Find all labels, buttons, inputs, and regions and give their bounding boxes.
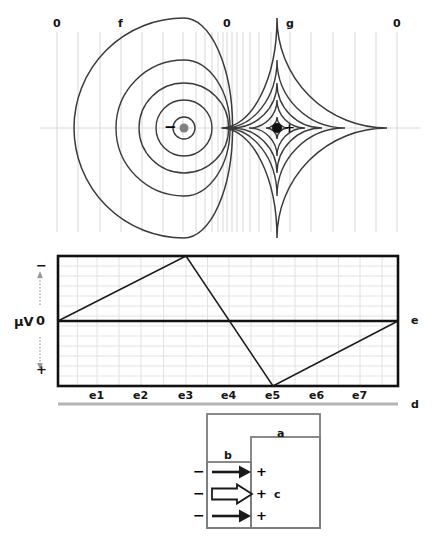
wavefront-minus-sign-2: − <box>193 508 205 522</box>
wavefront-minus-sign-1: − <box>193 486 205 500</box>
wavefront-arrow-hollow-1 <box>212 485 252 504</box>
wavefront-plus-sign-2: + <box>256 509 267 522</box>
wavefront-plus-sign-0: + <box>256 465 267 478</box>
wavefront-minus-sign-0: − <box>193 464 205 478</box>
wavefront-plus-sign-1: + <box>256 487 267 500</box>
wavefront-label-b: b <box>224 450 232 461</box>
wavefront-label-c: c <box>274 489 281 500</box>
wavefront-panel <box>0 0 441 536</box>
figure-root: 0 f 0 g 0 − + μV 0 − + e d e1e2e3e4e5e6e… <box>0 0 441 536</box>
wavefront-arrow-head-0 <box>239 466 251 479</box>
wavefront-arrows <box>212 466 252 523</box>
wavefront-arrow-head-2 <box>239 510 251 523</box>
wavefront-label-a: a <box>277 428 284 439</box>
